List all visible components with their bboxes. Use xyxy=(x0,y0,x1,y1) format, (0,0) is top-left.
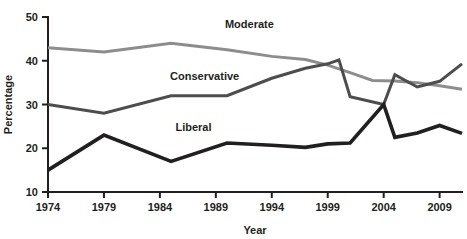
series-label-moderate: Moderate xyxy=(225,18,274,30)
x-tick-label: 1994 xyxy=(260,201,285,213)
series-inline-labels: ModerateConservativeLiberal xyxy=(170,18,274,133)
y-axis-ticks: 1020304050 xyxy=(26,11,48,198)
y-tick-label: 10 xyxy=(26,186,38,198)
y-tick-label: 50 xyxy=(26,11,38,23)
series-line-liberal xyxy=(48,105,462,171)
series-label-conservative: Conservative xyxy=(170,70,239,82)
y-tick-label: 30 xyxy=(26,99,38,111)
series-line-moderate xyxy=(48,43,462,89)
series-label-liberal: Liberal xyxy=(175,121,211,133)
y-tick-label: 20 xyxy=(26,142,38,154)
y-tick-label: 40 xyxy=(26,55,38,67)
line-chart: 1020304050 19741979198419891994199920042… xyxy=(0,0,467,239)
chart-canvas: 1020304050 19741979198419891994199920042… xyxy=(0,0,467,239)
x-tick-label: 1989 xyxy=(204,201,228,213)
series-line-conservative xyxy=(48,60,462,113)
x-tick-label: 2009 xyxy=(427,201,451,213)
x-tick-label: 2004 xyxy=(371,201,396,213)
x-axis-ticks: 19741979198419891994199920042009 xyxy=(36,192,452,213)
x-tick-label: 1974 xyxy=(36,201,61,213)
data-series-group xyxy=(48,43,462,170)
y-axis-title: Percentage xyxy=(2,75,14,134)
x-tick-label: 1999 xyxy=(315,201,339,213)
x-axis-title: Year xyxy=(243,224,267,236)
x-tick-label: 1979 xyxy=(92,201,116,213)
x-tick-label: 1984 xyxy=(148,201,173,213)
